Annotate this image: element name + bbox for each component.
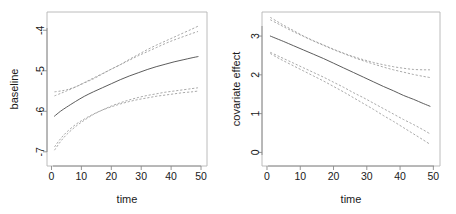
x-tick-label: 10 (294, 170, 306, 182)
y-tick-labels-baseline: -7-6-5-4 (34, 25, 46, 156)
y-axis-title-covariate: covariate effect (230, 52, 242, 126)
panel-covariate-effect: 0123 01020304050 covariate effect time (228, 0, 456, 214)
x-tick-label: 30 (361, 170, 373, 182)
curve-upper-band-b (54, 31, 198, 95)
x-tick-labels-covariate: 01020304050 (264, 170, 439, 182)
y-tick-label: -6 (34, 106, 46, 115)
curve-estimate (270, 36, 430, 106)
y-tick-label: -7 (34, 147, 46, 156)
curve-upper-band-a (54, 26, 198, 92)
y-tick-label: 3 (249, 33, 261, 39)
x-tick-label: 20 (328, 170, 340, 182)
y-tick-label: 0 (249, 149, 261, 155)
curve-lower-band-a (54, 88, 198, 150)
plot-box-covariate (262, 12, 440, 166)
x-axis-covariate (267, 166, 434, 170)
curve-upper-band-a (270, 17, 430, 69)
x-tick-label: 40 (394, 170, 406, 182)
covariate-curves (270, 17, 430, 144)
x-tick-label: 0 (264, 170, 270, 182)
x-tick-label: 0 (49, 170, 55, 182)
y-tick-label: -5 (34, 66, 46, 75)
x-tick-label: 20 (105, 170, 117, 182)
x-axis-title-baseline: time (117, 193, 138, 205)
baseline-curves (54, 26, 198, 150)
curve-lower-band-a (270, 52, 430, 133)
figure-root: -7-6-5-4 01020304050 baseline time 0123 … (0, 0, 456, 214)
x-tick-label: 50 (428, 170, 440, 182)
y-tick-label: 1 (249, 111, 261, 117)
y-axis-title-baseline: baseline (8, 69, 20, 110)
x-tick-label: 30 (135, 170, 147, 182)
y-axis-baseline (43, 28, 47, 152)
covariate-effect-plot-svg: 0123 01020304050 covariate effect time (228, 0, 456, 214)
curve-estimate (54, 57, 198, 117)
curve-lower-band-b (54, 91, 198, 147)
y-tick-label: -4 (34, 25, 46, 34)
x-tick-label: 40 (165, 170, 177, 182)
curve-lower-band-b (270, 54, 430, 145)
x-axis-baseline (51, 166, 201, 170)
x-tick-label: 50 (195, 170, 207, 182)
y-axis-covariate (258, 26, 262, 155)
y-tick-label: 2 (249, 72, 261, 78)
x-tick-label: 10 (76, 170, 88, 182)
y-tick-labels-covariate: 0123 (249, 33, 261, 155)
x-tick-labels-baseline: 01020304050 (49, 170, 207, 182)
x-axis-title-covariate: time (341, 193, 362, 205)
panel-baseline: -7-6-5-4 01020304050 baseline time (0, 0, 228, 214)
baseline-plot-svg: -7-6-5-4 01020304050 baseline time (0, 0, 228, 214)
